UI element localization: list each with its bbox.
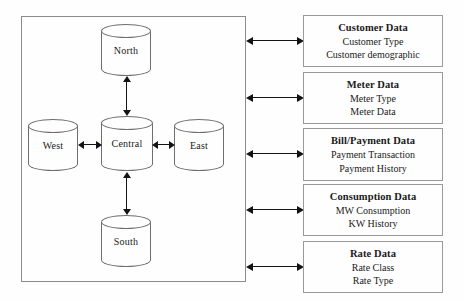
database-node-label: Central <box>101 116 153 171</box>
arrow-shaft <box>126 82 127 110</box>
connector-arrow-meter-data <box>246 93 304 102</box>
arrowhead-left-icon <box>246 37 253 45</box>
database-node-west[interactable]: West <box>28 119 78 171</box>
diagram-canvas: North West Central East South <box>0 0 464 300</box>
connector-arrow-consumption-data <box>246 205 304 214</box>
arrow-shaft <box>253 40 297 42</box>
entity-box-title: Consumption Data <box>330 190 417 204</box>
arrow-shaft <box>253 153 297 155</box>
entity-box-customer-data[interactable]: Customer Data Customer Type Customer dem… <box>303 15 443 67</box>
arrow-shaft <box>126 178 127 209</box>
database-node-south[interactable]: South <box>101 215 151 267</box>
arrowhead-left-icon <box>246 150 253 158</box>
database-node-central[interactable]: Central <box>101 116 153 171</box>
entity-box-bill-payment-data[interactable]: Bill/Payment Data Payment Transaction Pa… <box>303 128 443 181</box>
double-arrow-icon-north-central <box>122 76 131 116</box>
entity-box-line: Payment Transaction <box>331 148 415 162</box>
entity-box-line: Customer Type <box>342 35 403 49</box>
database-node-north[interactable]: North <box>101 24 151 76</box>
entity-box-title: Meter Data <box>347 78 399 92</box>
arrow-shaft <box>253 266 297 268</box>
arrow-shaft <box>158 144 169 145</box>
arrow-shaft <box>84 144 96 145</box>
entity-box-line: Rate Class <box>352 261 395 275</box>
database-node-label: North <box>101 24 151 76</box>
connector-arrow-bill-payment-data <box>246 149 304 158</box>
entity-box-consumption-data[interactable]: Consumption Data MW Consumption KW Histo… <box>303 184 443 236</box>
database-node-east[interactable]: East <box>174 119 224 171</box>
entity-box-title: Customer Data <box>338 21 408 35</box>
arrow-shaft <box>253 209 297 211</box>
entity-box-line: Customer demographic <box>326 48 420 62</box>
connector-arrow-customer-data <box>246 36 304 45</box>
entity-box-line: Meter Type <box>350 92 396 106</box>
arrowhead-left-icon <box>246 263 253 271</box>
database-node-label: West <box>28 119 78 171</box>
entity-box-title: Bill/Payment Data <box>331 134 415 148</box>
arrowhead-left-icon <box>246 94 253 102</box>
entity-box-meter-data[interactable]: Meter Data Meter Type Meter Data <box>303 72 443 124</box>
database-node-label: South <box>101 215 151 267</box>
entity-box-line: MW Consumption <box>336 204 411 218</box>
entity-box-title: Rate Data <box>350 247 396 261</box>
arrow-shaft <box>253 97 297 99</box>
double-arrow-icon-central-south <box>122 172 131 215</box>
double-arrow-icon-central-east <box>152 140 175 149</box>
entity-box-rate-data[interactable]: Rate Data Rate Class Rate Type <box>303 241 443 293</box>
database-node-label: East <box>174 119 224 171</box>
entity-box-line: KW History <box>349 217 398 231</box>
entity-box-line: Meter Data <box>350 105 395 119</box>
arrowhead-left-icon <box>246 206 253 214</box>
entity-box-line: Payment History <box>339 162 407 176</box>
connector-arrow-rate-data <box>246 262 304 271</box>
entity-box-line: Rate Type <box>353 274 394 288</box>
double-arrow-icon-west-central <box>78 140 102 149</box>
